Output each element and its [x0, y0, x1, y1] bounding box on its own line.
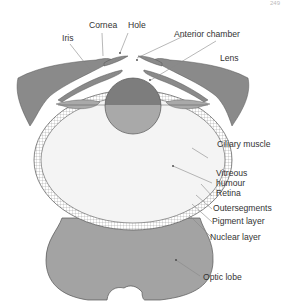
label-hole: Hole: [128, 20, 146, 30]
label-cornea: Cornea: [89, 20, 117, 30]
label-optic-lobe: Optic lobe: [203, 272, 242, 282]
label-ciliary-muscle: Ciliary muscle: [217, 139, 271, 149]
label-iris: Iris: [62, 33, 73, 43]
eye-diagram: 249 Corn: [0, 0, 295, 308]
label-anterior-chamber: Anterior chamber: [174, 29, 240, 39]
page-header-right: 249: [270, 0, 281, 6]
lens: [105, 78, 161, 134]
label-nuclear-layer: Nuclear layer: [210, 232, 261, 242]
cornea-right: [138, 56, 162, 66]
label-outersegments: Outersegments: [213, 203, 272, 213]
label-vitreous-humour-line2: humour: [216, 178, 245, 188]
label-vitreous-humour-line1: Vitreous: [216, 168, 247, 178]
cornea-left: [104, 56, 128, 66]
label-pigment-layer: Pigment layer: [212, 216, 265, 226]
label-retina: Retina: [216, 188, 241, 198]
label-lens: Lens: [220, 53, 239, 63]
